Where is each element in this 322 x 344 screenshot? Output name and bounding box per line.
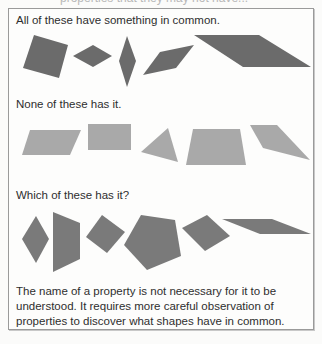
examples-shape-rhombus-wide	[73, 45, 112, 67]
non-examples-shape-triangle	[141, 128, 178, 162]
examples-shape-rhombus-tall	[119, 36, 136, 87]
non-examples-shape-trapezoid	[186, 129, 246, 165]
question-shape-square[interactable]	[86, 215, 125, 253]
examples-shapes	[23, 35, 311, 87]
examples-shape-parallelogram-large	[194, 35, 311, 67]
examples-shape-square	[23, 35, 68, 78]
examples-shape-parallelogram-slanted	[143, 45, 194, 75]
question-shape-square-rotated[interactable]	[182, 215, 230, 251]
non-examples-shape-rectangle	[88, 124, 131, 150]
non-examples-shape-quadrilateral	[250, 125, 310, 160]
question-shape-rhombus[interactable]	[22, 216, 49, 263]
explanation-text: The name of a property is not necessary …	[16, 284, 312, 329]
question-shapes	[22, 212, 311, 272]
question-shape-pentagon[interactable]	[124, 215, 181, 270]
non-examples-shape-parallelogram	[22, 130, 81, 155]
non-examples-shapes	[22, 124, 310, 165]
question-shape-trapezoid[interactable]	[53, 212, 80, 272]
question-shape-parallelogram[interactable]	[222, 219, 311, 234]
